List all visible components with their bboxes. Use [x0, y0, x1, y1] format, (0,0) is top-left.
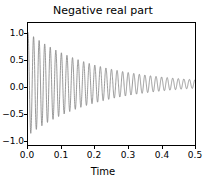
x-tick-mark	[195, 146, 196, 149]
y-tick-label: 0.0	[0, 83, 24, 92]
y-tick-mark	[24, 33, 27, 34]
x-tick-mark	[162, 146, 163, 149]
y-tick-mark	[24, 114, 27, 115]
y-tick-label: −1.0	[0, 137, 24, 146]
damped-oscillation-curve	[28, 23, 195, 145]
x-tick-label: 0.4	[147, 151, 177, 160]
x-axis-label: Time	[0, 166, 206, 178]
chart-figure: Negative real part 1.0 0.5 0.0 −0.5 −1.0…	[0, 0, 206, 183]
y-tick-mark	[24, 60, 27, 61]
x-tick-mark	[61, 146, 62, 149]
x-tick-mark	[94, 146, 95, 149]
x-tick-label: 0.5	[180, 151, 206, 160]
y-tick-label: −0.5	[0, 110, 24, 119]
x-tick-mark	[128, 146, 129, 149]
chart-title: Negative real part	[0, 4, 206, 17]
x-axis-tick-labels: 0.0 0.1 0.2 0.3 0.4 0.5	[0, 151, 206, 163]
x-tick-mark	[27, 146, 28, 149]
y-tick-mark	[24, 87, 27, 88]
x-tick-label: 0.3	[113, 151, 143, 160]
y-tick-label: 0.5	[0, 56, 24, 65]
y-tick-mark	[24, 141, 27, 142]
x-tick-label: 0.1	[46, 151, 76, 160]
x-tick-label: 0.0	[12, 151, 42, 160]
plot-area	[27, 22, 196, 146]
y-tick-label: 1.0	[0, 29, 24, 38]
x-tick-label: 0.2	[79, 151, 109, 160]
